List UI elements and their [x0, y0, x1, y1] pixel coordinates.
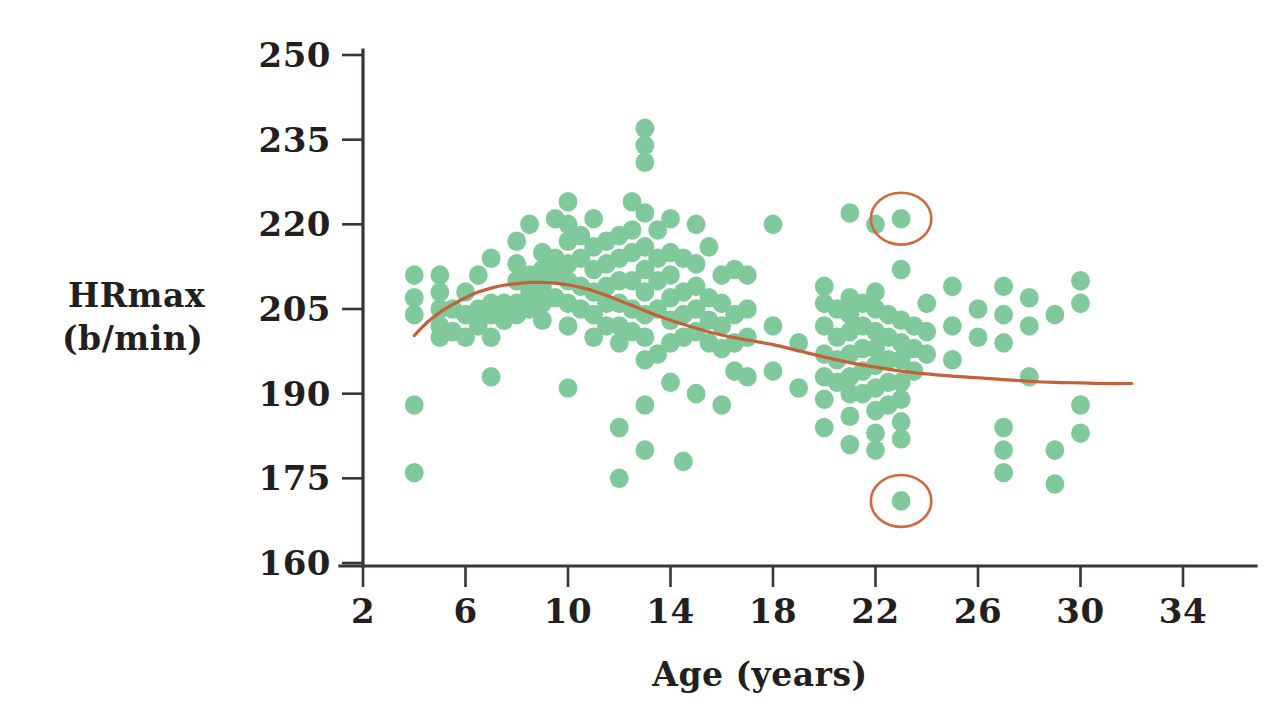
data-point — [815, 390, 834, 410]
data-point — [994, 277, 1013, 297]
data-point — [623, 220, 642, 240]
data-point — [520, 215, 539, 235]
data-point — [892, 209, 911, 229]
data-point — [866, 282, 885, 302]
y-tick-label: 190 — [259, 374, 331, 414]
data-point — [840, 435, 859, 455]
data-point — [482, 248, 501, 268]
data-point — [943, 277, 962, 297]
data-point — [1071, 294, 1090, 314]
data-point — [994, 440, 1013, 460]
x-tick-label: 14 — [646, 591, 694, 631]
data-point — [405, 305, 424, 325]
data-point — [635, 440, 654, 460]
data-point — [661, 373, 680, 393]
data-point — [469, 265, 488, 285]
x-tick-label: 10 — [544, 591, 592, 631]
data-point — [815, 277, 834, 297]
y-tick-label: 250 — [259, 35, 331, 75]
data-point — [635, 152, 654, 172]
data-point — [1071, 423, 1090, 443]
data-point — [994, 333, 1013, 353]
data-point — [635, 395, 654, 415]
data-point — [892, 412, 911, 432]
x-tick-label: 34 — [1159, 591, 1207, 631]
data-point — [840, 203, 859, 223]
y-axis-title-line1: HRmax — [68, 276, 205, 315]
x-tick-label: 26 — [954, 591, 1002, 631]
x-tick-label: 18 — [749, 591, 797, 631]
data-point — [1020, 288, 1039, 308]
data-point — [687, 254, 706, 274]
data-point — [635, 203, 654, 223]
data-point — [482, 327, 501, 347]
data-point — [635, 327, 654, 347]
x-axis-title: Age (years) — [651, 655, 867, 694]
hrmax-vs-age-scatter-chart: 160175190205220235250 2610141822263034 H… — [0, 0, 1284, 721]
data-point — [533, 310, 552, 330]
data-point — [1020, 316, 1039, 336]
data-point — [764, 361, 783, 381]
data-point — [1045, 474, 1064, 494]
data-point — [635, 136, 654, 156]
data-point — [1020, 367, 1039, 387]
data-point — [840, 406, 859, 426]
data-point — [789, 378, 808, 398]
data-point — [917, 344, 936, 364]
data-point — [969, 299, 988, 319]
data-point — [764, 316, 783, 336]
data-point — [430, 265, 449, 285]
data-point — [405, 395, 424, 415]
data-point — [866, 423, 885, 443]
data-point — [482, 367, 501, 387]
data-point — [943, 316, 962, 336]
data-point — [738, 367, 757, 387]
data-point — [674, 452, 693, 472]
data-point — [700, 237, 719, 257]
y-axis-title-line2: (b/min) — [62, 319, 203, 358]
data-point — [815, 418, 834, 438]
data-point — [866, 440, 885, 460]
data-point — [405, 463, 424, 483]
y-tick-label: 235 — [259, 120, 331, 160]
x-tick-label: 2 — [351, 591, 375, 631]
data-point — [712, 395, 731, 415]
y-tick-label: 220 — [259, 204, 331, 244]
data-point — [430, 282, 449, 302]
x-tick-label: 22 — [851, 591, 899, 631]
data-point — [559, 192, 578, 212]
data-point — [917, 294, 936, 314]
data-point — [892, 260, 911, 280]
data-point — [892, 390, 911, 410]
data-point — [969, 327, 988, 347]
data-point — [687, 384, 706, 404]
data-point — [559, 316, 578, 336]
data-point — [994, 463, 1013, 483]
y-tick-label: 175 — [259, 458, 331, 498]
data-point — [610, 418, 629, 438]
data-point — [1071, 395, 1090, 415]
data-point — [917, 322, 936, 342]
data-point — [943, 350, 962, 370]
data-point — [559, 378, 578, 398]
data-point — [687, 215, 706, 235]
data-point — [1045, 440, 1064, 460]
data-point — [738, 299, 757, 319]
data-point — [1071, 271, 1090, 291]
data-point — [892, 429, 911, 449]
data-point — [635, 119, 654, 139]
data-point — [610, 469, 629, 489]
data-point — [584, 209, 603, 229]
data-point — [661, 209, 680, 229]
x-tick-label: 30 — [1056, 591, 1104, 631]
data-point — [994, 418, 1013, 438]
chart-page: 160175190205220235250 2610141822263034 H… — [0, 0, 1284, 721]
data-point — [507, 231, 526, 251]
data-point — [738, 265, 757, 285]
data-point — [1045, 305, 1064, 325]
data-point — [764, 215, 783, 235]
y-tick-label: 160 — [259, 543, 331, 583]
data-point — [892, 491, 911, 511]
x-tick-label: 6 — [453, 591, 477, 631]
data-point — [405, 288, 424, 308]
